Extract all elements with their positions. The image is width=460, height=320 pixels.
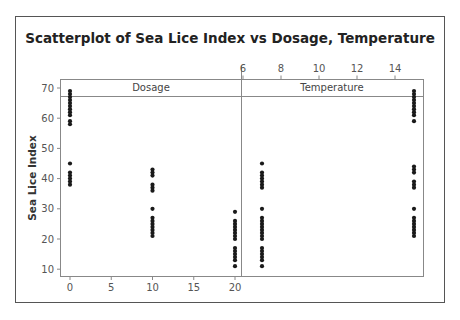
data-point: [412, 186, 416, 190]
x-tick-label: 20: [229, 282, 242, 293]
data-point: [260, 264, 264, 268]
x-tick-label: 6: [240, 63, 246, 74]
data-point: [233, 210, 237, 214]
strip-label-dosage: Dosage: [132, 82, 170, 93]
chart-outer-frame: [16, 17, 445, 303]
data-point: [150, 173, 154, 177]
y-tick-label: 40: [41, 173, 54, 184]
data-point: [412, 170, 416, 174]
data-point: [150, 234, 154, 238]
data-point: [68, 122, 72, 126]
data-point: [233, 264, 237, 268]
data-point: [260, 258, 264, 262]
y-tick-label: 60: [41, 113, 54, 124]
data-point: [68, 183, 72, 187]
data-point: [260, 237, 264, 241]
data-point: [68, 161, 72, 165]
scatterplot-chart: Scatterplot of Sea Lice Index vs Dosage,…: [0, 0, 460, 320]
x-tick-label: 15: [187, 282, 200, 293]
data-point: [150, 189, 154, 193]
x-tick-label: 0: [67, 282, 73, 293]
x-tick-label: 12: [351, 63, 364, 74]
x-tick-label: 5: [108, 282, 114, 293]
data-point: [412, 207, 416, 211]
data-point: [68, 113, 72, 117]
strip-label-temperature: Temperature: [299, 82, 363, 93]
y-axis-label: Sea Lice Index: [26, 135, 38, 221]
y-tick-label: 20: [41, 234, 54, 245]
data-point: [412, 119, 416, 123]
x-tick-label: 8: [278, 63, 284, 74]
data-point: [233, 258, 237, 262]
x-tick-label: 14: [389, 63, 402, 74]
data-point: [260, 186, 264, 190]
x-tick-label: 10: [146, 282, 159, 293]
data-point: [412, 113, 416, 117]
y-tick-label: 30: [41, 203, 54, 214]
y-tick-label: 10: [41, 264, 54, 275]
data-point: [150, 207, 154, 211]
data-point: [260, 161, 264, 165]
data-point: [260, 207, 264, 211]
y-tick-label: 70: [41, 83, 54, 94]
data-point: [412, 234, 416, 238]
y-tick-label: 50: [41, 143, 54, 154]
x-tick-label: 10: [313, 63, 326, 74]
chart-title: Scatterplot of Sea Lice Index vs Dosage,…: [25, 30, 435, 46]
data-point: [233, 237, 237, 241]
